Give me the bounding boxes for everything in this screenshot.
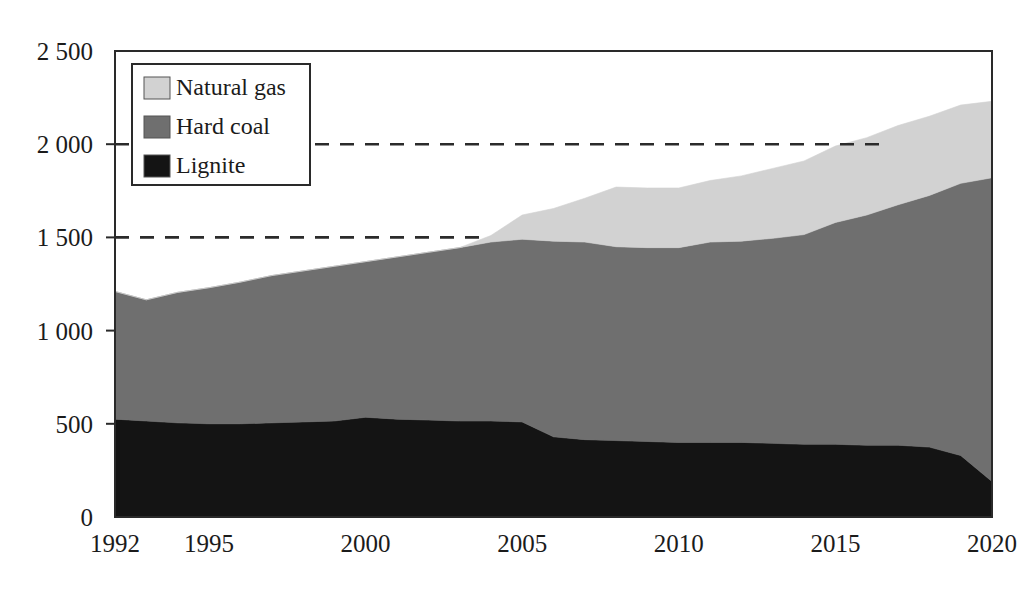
x-tick-label-1995: 1995	[184, 530, 234, 557]
legend-swatch-hard-coal	[144, 116, 170, 138]
x-tick-label-2000: 2000	[341, 530, 391, 557]
y-tick-label-1000: 1 000	[37, 318, 93, 345]
y-tick-label-2000: 2 000	[37, 131, 93, 158]
legend-swatch-natural-gas	[144, 77, 170, 99]
chart-legend: Natural gasHard coalLignite	[132, 64, 310, 185]
chart-container: 05001 0001 5002 0002 500 199219952000200…	[0, 0, 1030, 596]
stacked-area-chart: 05001 0001 5002 0002 500 199219952000200…	[0, 0, 1030, 596]
x-tick-label-2015: 2015	[810, 530, 860, 557]
legend-label-hard-coal: Hard coal	[176, 113, 270, 139]
y-tick-label-1500: 1 500	[37, 224, 93, 251]
x-tick-label-2010: 2010	[654, 530, 704, 557]
y-tick-label-2500: 2 500	[37, 38, 93, 65]
x-tick-label-2020: 2020	[967, 530, 1017, 557]
y-tick-label-0: 0	[81, 504, 94, 531]
legend-swatch-lignite	[144, 155, 170, 177]
legend-label-lignite: Lignite	[176, 152, 245, 178]
legend-label-natural-gas: Natural gas	[176, 74, 286, 100]
x-tick-label-2005: 2005	[497, 530, 547, 557]
x-tick-label-1992: 1992	[90, 530, 140, 557]
y-tick-label-500: 500	[56, 411, 94, 438]
